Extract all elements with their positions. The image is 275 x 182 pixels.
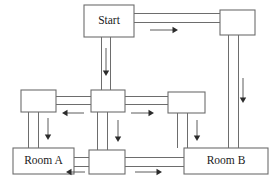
arrow-head — [173, 27, 179, 33]
corridor-hub-to-midright — [125, 96, 168, 104]
node-box-mid_left[interactable] — [21, 90, 56, 112]
corridor-start-to-topright — [134, 13, 220, 22]
node-box-top_right[interactable] — [220, 10, 255, 35]
arrow-topright-down-icon — [240, 78, 246, 103]
node-layer: StartRoom ARoom B — [13, 5, 268, 174]
node-start[interactable]: Start — [84, 5, 134, 37]
corridor-midright-to-roomb — [177, 113, 187, 148]
arrow-bottom-right-icon — [135, 169, 162, 175]
node-box-bottom_mid[interactable] — [89, 150, 125, 174]
node-box-hub_center[interactable] — [91, 90, 125, 112]
arrow-head — [194, 136, 200, 142]
corridor-hub-to-bottommid — [97, 112, 107, 150]
arrow-head — [157, 169, 163, 175]
node-label-room_a: Room A — [24, 154, 63, 166]
arrow-hub-left-icon — [62, 110, 84, 116]
node-mid_right[interactable] — [168, 92, 205, 113]
node-bottom_mid[interactable] — [89, 150, 125, 174]
node-top_right[interactable] — [220, 10, 255, 35]
corridor-bottommid-to-roomb — [125, 157, 184, 166]
arrow-head — [115, 137, 121, 143]
arrow-start-right-icon — [150, 27, 178, 33]
arrow-head — [45, 135, 51, 141]
arrow-head — [240, 98, 246, 104]
node-label-start: Start — [98, 14, 121, 26]
corridor-midleft-to-hub — [56, 96, 91, 104]
arrow-head — [62, 110, 68, 116]
arrow-midright-down-icon — [194, 120, 200, 141]
diagram-canvas: StartRoom ARoom B — [0, 0, 275, 182]
node-hub_center[interactable] — [91, 90, 125, 112]
arrow-head — [149, 110, 155, 116]
arrow-hub-down-icon — [115, 120, 121, 142]
node-mid_left[interactable] — [21, 90, 56, 112]
corridor-topright-to-roomb — [228, 35, 238, 148]
corridor-start-to-hub — [101, 37, 110, 90]
node-label-room_b: Room B — [207, 154, 246, 166]
corridor-midleft-to-rooma — [28, 112, 38, 148]
arrow-head — [103, 71, 109, 77]
arrow-hub-right-icon — [131, 110, 154, 116]
node-box-mid_right[interactable] — [168, 92, 205, 113]
node-room_b[interactable]: Room B — [184, 148, 268, 174]
node-room_a[interactable]: Room A — [13, 148, 74, 174]
arrow-midleft-down-icon — [45, 118, 51, 140]
corridor-flow-diagram: StartRoom ARoom B — [0, 0, 275, 182]
corridor-rooma-to-bottommid — [74, 157, 89, 166]
arrow-start-down-icon — [103, 48, 109, 76]
